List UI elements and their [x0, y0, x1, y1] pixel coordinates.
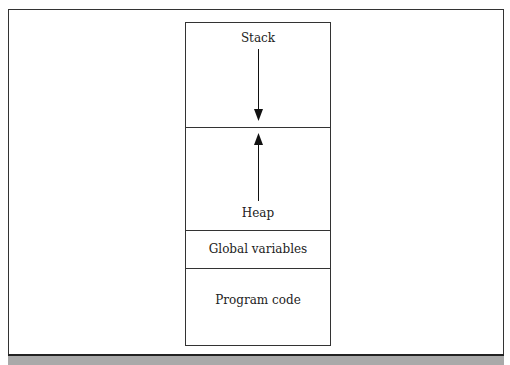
- program-code-label: Program code: [186, 293, 330, 307]
- bottom-band: [8, 354, 504, 365]
- stack-label: Stack: [186, 31, 330, 45]
- heap-label: Heap: [186, 206, 330, 220]
- arrowhead-down-icon: [254, 109, 263, 121]
- arrow-down-icon: [258, 49, 259, 111]
- global-variables-segment: Global variables: [185, 230, 331, 269]
- heap-segment: Heap: [185, 127, 331, 231]
- program-code-segment: Program code: [185, 268, 331, 346]
- global-variables-label: Global variables: [186, 242, 330, 256]
- arrow-up-icon: [258, 143, 259, 201]
- stack-segment: Stack: [185, 22, 331, 128]
